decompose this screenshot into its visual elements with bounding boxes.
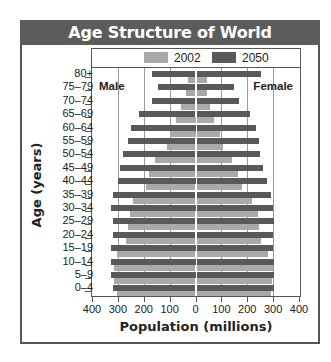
bar-2050-female: [196, 259, 275, 265]
bar-2050-male: [111, 205, 195, 211]
y-tick: [85, 90, 91, 91]
y-tick: [85, 291, 91, 292]
bar-2002-male: [114, 278, 196, 284]
x-tick: [299, 297, 300, 302]
bar-2002-male: [167, 144, 195, 150]
y-tick-label: 75–79: [33, 80, 93, 92]
y-tick-label: 20–24: [33, 228, 93, 240]
bar-2002-male: [117, 251, 196, 257]
bar-2002-female: [196, 211, 258, 217]
y-tick: [85, 144, 91, 145]
y-tick: [85, 104, 91, 105]
bar-2050-male: [158, 84, 196, 90]
bar-2002-male: [114, 265, 196, 271]
x-tick: [118, 297, 119, 302]
y-tick: [85, 157, 91, 158]
x-tick: [247, 297, 248, 302]
bar-2002-male: [186, 90, 195, 96]
legend-swatch-2002: [144, 52, 168, 63]
male-label: Male: [99, 80, 125, 92]
bar-2050-male: [111, 272, 195, 278]
bar-2002-female: [196, 131, 221, 137]
bar-2050-female: [196, 71, 262, 77]
bar-2050-female: [196, 84, 235, 90]
bar-2002-male: [149, 171, 196, 177]
y-tick: [85, 77, 91, 78]
bar-2050-male: [152, 98, 196, 104]
bar-2050-female: [196, 151, 261, 157]
bar-2002-male: [128, 224, 195, 230]
bar-2002-female: [196, 238, 262, 244]
bar-2050-female: [196, 111, 250, 117]
y-axis-title: Age (years): [29, 143, 44, 228]
bar-2050-male: [120, 165, 195, 171]
bar-2050-female: [196, 178, 267, 184]
bar-2050-male: [128, 138, 195, 144]
x-tick: [92, 297, 93, 302]
x-tick: [273, 297, 274, 302]
bar-2050-female: [196, 165, 263, 171]
y-tick-label: 70–74: [33, 94, 93, 106]
y-tick: [85, 171, 91, 172]
female-label: Female: [253, 80, 293, 92]
bar-2002-male: [133, 198, 195, 204]
bar-2002-male: [126, 238, 196, 244]
bar-2002-female: [196, 117, 214, 123]
y-tick: [85, 265, 91, 266]
bar-2002-male: [188, 77, 196, 83]
y-tick: [85, 184, 91, 185]
legend-label-2002: 2002: [174, 51, 201, 65]
bar-2002-female: [196, 144, 223, 150]
bar-2050-female: [196, 138, 259, 144]
bar-2002-male: [130, 211, 196, 217]
bar-2002-female: [196, 184, 243, 190]
bar-2002-female: [196, 77, 208, 83]
bar-2002-female: [196, 278, 272, 284]
bar-2002-female: [196, 224, 259, 230]
y-tick-label: 80+: [33, 67, 93, 79]
y-tick: [85, 198, 91, 199]
bar-2050-female: [196, 218, 275, 224]
bar-2050-male: [152, 71, 196, 77]
y-tick: [85, 251, 91, 252]
bar-2050-female: [196, 245, 274, 251]
y-tick-label: 15–19: [33, 241, 93, 253]
legend-label-2050: 2050: [242, 51, 269, 65]
bar-2050-male: [123, 151, 195, 157]
legend-swatch-2050: [212, 52, 236, 63]
center-axis-line: [196, 68, 197, 296]
bar-2050-male: [111, 259, 195, 265]
bar-2050-female: [196, 98, 240, 104]
bar-2002-male: [176, 117, 195, 123]
bar-2002-female: [196, 251, 268, 257]
bar-2050-female: [196, 285, 275, 291]
plot-area: Male Female: [91, 67, 301, 297]
bar-2050-male: [131, 125, 196, 131]
bar-2002-female: [196, 90, 208, 96]
x-tick: [221, 297, 222, 302]
chart-title: Age Structure of World Population: [20, 20, 320, 45]
bar-2050-female: [196, 192, 271, 198]
bar-2050-female: [196, 205, 274, 211]
bar-2050-male: [118, 178, 196, 184]
y-tick-label: 60–64: [33, 121, 93, 133]
y-tick: [85, 224, 91, 225]
bar-2002-female: [196, 198, 253, 204]
bar-2002-female: [196, 291, 271, 297]
y-tick: [85, 117, 91, 118]
x-tick: [196, 297, 197, 302]
legend: 2002 2050: [91, 48, 301, 68]
bar-2050-female: [196, 232, 274, 238]
bar-2002-male: [155, 157, 195, 163]
y-tick-label: 10–14: [33, 255, 93, 267]
bar-2050-male: [139, 111, 196, 117]
bar-2002-female: [196, 104, 210, 110]
bar-2050-male: [113, 218, 196, 224]
y-tick: [85, 278, 91, 279]
bar-2050-female: [196, 272, 275, 278]
x-tick-label: 400: [284, 303, 314, 315]
bar-2050-male: [113, 232, 196, 238]
y-tick-label: 5–9: [33, 268, 93, 280]
bar-2050-male: [113, 285, 196, 291]
x-tick: [170, 297, 171, 302]
